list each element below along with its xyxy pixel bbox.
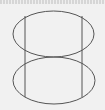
ellipse-diagram: [0, 0, 105, 110]
